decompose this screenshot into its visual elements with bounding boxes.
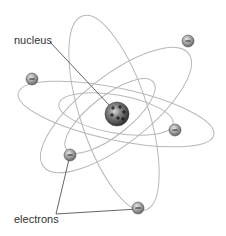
nucleus [105,102,129,126]
nucleus-label: nucleus [14,35,52,46]
electron-1 [26,73,38,85]
electrons-label: electrons [14,214,59,225]
electron-5 [132,202,144,214]
electron-3 [169,124,181,136]
electron-2 [182,35,194,47]
nucleus-sphere [105,102,129,126]
electron-4 [64,149,76,161]
electrons [26,35,194,214]
electrons-leader-line [56,155,138,214]
